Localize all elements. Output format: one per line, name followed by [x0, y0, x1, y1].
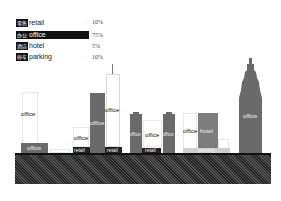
- legend-item-retail: 零售 retail: [16, 19, 44, 27]
- building-2-label: office: [74, 135, 88, 141]
- legend-item-parking: 停车 parking: [16, 53, 52, 61]
- legend-pct-parking: 10%: [92, 54, 103, 60]
- building-7-label: office: [162, 131, 174, 137]
- legend-cn-parking: 停车: [16, 53, 28, 61]
- legend-pct-hotel: 5%: [92, 43, 100, 49]
- building-4-label: office: [105, 107, 119, 113]
- legend-cn-hotel: 酒店: [16, 42, 28, 50]
- legend-label-retail: retail: [29, 19, 44, 27]
- building-9-skyscraper: [238, 58, 263, 154]
- legend-cn-office: 办公: [16, 31, 28, 39]
- legend-pct-office: 75%: [92, 32, 103, 38]
- building-5-label: office: [129, 131, 141, 137]
- legend-cn-retail: 零售: [16, 19, 28, 27]
- building-1-ghost: [22, 92, 38, 144]
- building-4-spire: [112, 64, 113, 74]
- building-1-label: office: [21, 111, 35, 117]
- legend-label-parking: parking: [29, 53, 52, 61]
- building-8-hotel-label: hotel: [200, 128, 213, 134]
- building-7-cap: [166, 112, 172, 114]
- building-5-cap: [133, 112, 139, 114]
- legend-label-hotel: hotel: [29, 42, 44, 50]
- legend-item-office: 办公 office: [16, 31, 46, 39]
- building-9-label: office: [243, 113, 257, 119]
- building-1-base-label: office: [27, 145, 41, 151]
- legend-label-office: office: [29, 31, 46, 39]
- building-3-label: office: [90, 120, 104, 126]
- legend-pct-retail: 10%: [92, 19, 103, 25]
- building-6-label: office: [145, 132, 159, 138]
- ground-hatch: [15, 153, 271, 184]
- legend-item-hotel: 酒店 hotel: [16, 42, 44, 50]
- building-8-ghost-label: office: [183, 128, 197, 134]
